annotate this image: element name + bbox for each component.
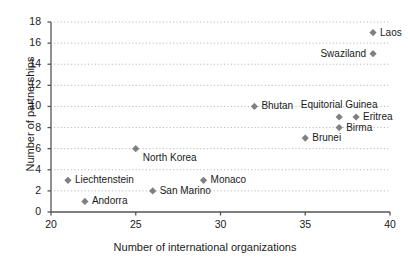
- x-axis-title: Number of international organizations: [0, 241, 410, 253]
- data-point-marker[interactable]: [81, 198, 88, 205]
- x-tick-label: 40: [377, 218, 403, 230]
- data-point-label: Andorra: [92, 195, 128, 206]
- data-point-label: Birma: [346, 122, 372, 133]
- y-tick-label: 6: [17, 142, 41, 154]
- data-point-marker[interactable]: [336, 124, 343, 131]
- data-point-label: North Korea: [143, 152, 197, 163]
- y-tick-label: 2: [17, 184, 41, 196]
- x-tick-label: 20: [38, 218, 64, 230]
- data-point-label: San Marino: [160, 185, 211, 196]
- y-tick-label: 10: [17, 99, 41, 111]
- y-tick-label: 8: [17, 121, 41, 133]
- data-point-marker[interactable]: [353, 113, 360, 120]
- data-point-label: Swaziland: [320, 48, 366, 59]
- y-tick-label: 18: [17, 15, 41, 27]
- x-tick-label: 35: [292, 218, 318, 230]
- data-point-label: Equitorial Guinea: [301, 99, 378, 110]
- data-point-label: Liechtenstein: [75, 174, 134, 185]
- x-tick-label: 25: [123, 218, 149, 230]
- data-point-marker[interactable]: [251, 103, 258, 110]
- data-point-label: Laos: [380, 27, 402, 38]
- data-point-marker[interactable]: [149, 187, 156, 194]
- data-point-marker[interactable]: [369, 29, 376, 36]
- data-point-marker[interactable]: [200, 177, 207, 184]
- y-tick-label: 12: [17, 78, 41, 90]
- y-tick-label: 0: [17, 205, 41, 217]
- data-point-label: Eritrea: [363, 111, 392, 122]
- data-point-marker[interactable]: [369, 50, 376, 57]
- x-tick-label: 30: [208, 218, 234, 230]
- data-point-marker[interactable]: [64, 177, 71, 184]
- data-point-label: Bhutan: [261, 100, 293, 111]
- scatter-plot: Number of international organizations Nu…: [0, 0, 410, 265]
- y-tick-label: 4: [17, 163, 41, 175]
- y-tick-label: 14: [17, 57, 41, 69]
- data-point-marker[interactable]: [132, 145, 139, 152]
- data-point-marker[interactable]: [336, 113, 343, 120]
- data-point-label: Monaco: [211, 174, 247, 185]
- data-point-marker[interactable]: [302, 135, 309, 142]
- data-point-label: Brunei: [312, 132, 341, 143]
- y-tick-label: 16: [17, 36, 41, 48]
